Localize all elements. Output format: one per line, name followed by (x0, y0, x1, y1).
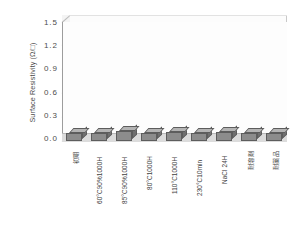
x-label-5: 230°C10min (196, 160, 203, 196)
y-tick-0-9: 0.9 (18, 64, 58, 73)
bar-front-8 (266, 133, 282, 141)
bar-front-5 (191, 133, 207, 141)
x-label-3: 80°C1000H (146, 156, 153, 190)
x-label-8: 耐薬品 (271, 151, 280, 170)
y-tick-1-5: 1.5 (18, 18, 58, 27)
x-label-4: 110°C1000H (171, 157, 178, 194)
y-tick-0-0: 0.0 (18, 134, 58, 143)
x-label-0: 初期 (71, 151, 80, 164)
bar-front-6 (216, 132, 232, 141)
y-axis-tick-labels: 1.5 1.2 0.9 0.6 0.3 0.0 (14, 0, 58, 160)
bar-front-2 (116, 131, 132, 141)
bar-front-4 (166, 132, 182, 141)
x-label-7: 耐溶剤 (246, 151, 255, 170)
gridline-1-5 (69, 15, 287, 16)
surface-resistivity-bar-chart: Surface Resistivity (Ω/□) 1.5 1.2 0.9 0.… (0, 0, 307, 230)
bar-series (62, 22, 287, 141)
x-label-1: 60°C90%1000H (96, 157, 103, 204)
x-label-6: NaCl 24H (221, 155, 228, 184)
y-tick-0-6: 0.6 (18, 88, 58, 97)
x-axis-tick-labels: 初期 60°C90%1000H 85°C90%1000H 80°C1000H 1… (62, 144, 292, 228)
bar-front-1 (91, 133, 107, 141)
x-label-2: 85°C90%1000H (121, 157, 128, 204)
bar-front-0 (66, 133, 82, 141)
bar-front-7 (241, 133, 257, 141)
y-tick-0-3: 0.3 (18, 111, 58, 120)
y-tick-1-2: 1.2 (18, 41, 58, 50)
bar-front-3 (141, 133, 157, 141)
